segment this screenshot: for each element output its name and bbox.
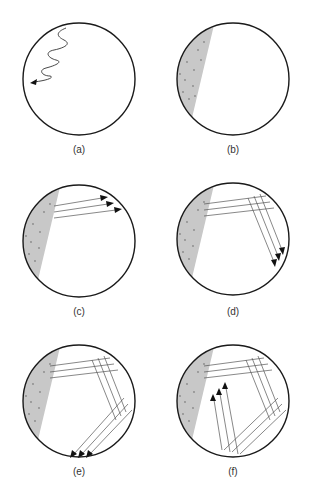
panel-b: (b): [158, 4, 308, 164]
panel-e: (e): [4, 326, 154, 486]
panel-a: (a): [4, 4, 154, 164]
panel-d: (d): [158, 164, 308, 324]
panel-d-diagram: [158, 164, 308, 314]
panel-label: (e): [4, 466, 154, 477]
panel-label: (a): [4, 144, 154, 155]
panel-c: (c): [4, 166, 154, 326]
panel-label: (c): [4, 306, 154, 317]
panel-f: (f): [158, 326, 308, 486]
panel-f-diagram: [158, 326, 308, 476]
panel-label: (d): [158, 306, 308, 317]
panel-c-diagram: [4, 166, 154, 316]
circle-outline: [23, 23, 135, 135]
panel-label: (f): [158, 466, 308, 477]
panel-label: (b): [158, 144, 308, 155]
panel-e-diagram: [4, 326, 154, 476]
panel-a-diagram: [4, 4, 154, 154]
panel-b-diagram: [158, 4, 308, 154]
